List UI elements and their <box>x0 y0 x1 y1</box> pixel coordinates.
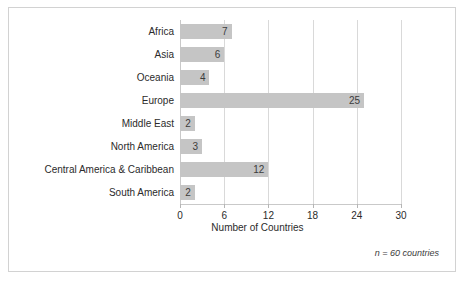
bar-row: Asia6 <box>180 43 401 66</box>
category-label: Central America & Caribbean <box>44 162 174 177</box>
bar-value-label: 25 <box>180 93 364 108</box>
bar-value-label: 3 <box>180 139 202 154</box>
bar-row: Middle East2 <box>180 112 401 135</box>
chart-figure: Africa7Asia6Oceania4Europe25Middle East2… <box>0 0 467 284</box>
bar-value-label: 12 <box>180 162 268 177</box>
category-label: Middle East <box>122 116 174 131</box>
bar-value-label: 2 <box>180 185 195 200</box>
bar-row: Africa7 <box>180 20 401 43</box>
x-tick-mark <box>268 204 269 208</box>
x-axis: 0612182430 <box>180 204 401 205</box>
category-label: Africa <box>148 24 174 39</box>
x-tick-label: 30 <box>386 210 416 221</box>
bar-row: Europe25 <box>180 89 401 112</box>
sample-size-annotation: n = 60 countries <box>375 248 439 258</box>
bar-value-label: 7 <box>180 24 232 39</box>
bar-row: South America2 <box>180 181 401 204</box>
category-label: Oceania <box>137 70 174 85</box>
plot-area: Africa7Asia6Oceania4Europe25Middle East2… <box>180 20 401 204</box>
bar-row: Oceania4 <box>180 66 401 89</box>
x-tick-label: 24 <box>342 210 372 221</box>
category-label: South America <box>109 185 174 200</box>
category-label: Asia <box>155 47 174 62</box>
category-label: Europe <box>142 93 174 108</box>
x-tick-mark <box>313 204 314 208</box>
x-axis-title: Number of Countries <box>0 222 467 233</box>
gridline-30 <box>401 20 402 204</box>
bar-row: Central America & Caribbean12 <box>180 158 401 181</box>
bar-row: North America3 <box>180 135 401 158</box>
x-tick-mark <box>401 204 402 208</box>
x-tick-label: 18 <box>298 210 328 221</box>
x-tick-label: 0 <box>165 210 195 221</box>
x-tick-label: 6 <box>209 210 239 221</box>
category-label: North America <box>111 139 174 154</box>
x-tick-mark <box>224 204 225 208</box>
bar-value-label: 2 <box>180 116 195 131</box>
bar-value-label: 6 <box>180 47 224 62</box>
x-tick-mark <box>357 204 358 208</box>
x-tick-mark <box>180 204 181 208</box>
bar-value-label: 4 <box>180 70 209 85</box>
x-tick-label: 12 <box>253 210 283 221</box>
